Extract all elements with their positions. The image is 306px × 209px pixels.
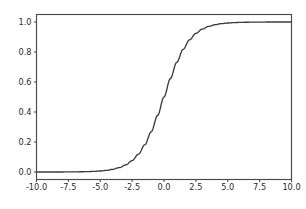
y-tick-label: 0.6 [18, 77, 31, 87]
x-tick-label: -10.0 [26, 182, 47, 192]
x-tick-label: 5.0 [221, 182, 234, 192]
y-tick-label: 0.0 [18, 167, 31, 177]
figure-canvas: -10.0-7.5-5.0-2.50.02.55.07.510.0 0.00.2… [0, 0, 306, 209]
y-tick-label: 0.8 [18, 47, 31, 57]
x-tick-label: 7.5 [253, 182, 266, 192]
x-tick-label: 2.5 [189, 182, 202, 192]
y-tick-label: 1.0 [18, 17, 31, 27]
x-tick-label: 0.0 [157, 182, 170, 192]
sigmoid-chart: -10.0-7.5-5.0-2.50.02.55.07.510.0 0.00.2… [0, 0, 306, 209]
y-tick-label: 0.4 [18, 107, 31, 117]
x-tick-label: -7.5 [60, 182, 76, 192]
x-tick-label: 10.0 [282, 182, 300, 192]
y-tick-label: 0.2 [18, 137, 31, 147]
x-tick-label: -5.0 [92, 182, 108, 192]
x-tick-label: -2.5 [124, 182, 140, 192]
x-tick-labels: -10.0-7.5-5.0-2.50.02.55.07.510.0 [26, 182, 301, 192]
